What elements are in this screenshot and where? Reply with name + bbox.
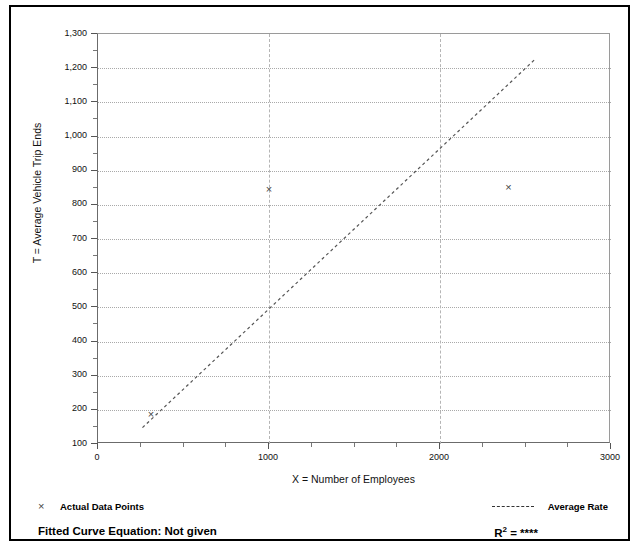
r-squared-prefix: R	[494, 527, 502, 539]
plot-area: ×××	[97, 33, 610, 443]
x-axis-minor-tick	[225, 443, 226, 447]
x-axis-minor-tick	[311, 443, 312, 447]
x-axis-minor-tick	[396, 443, 397, 447]
x-axis-minor-tick	[567, 443, 568, 447]
clipped-chart-title	[0, 0, 638, 4]
legend-row-statistics: Fitted Curve Equation: Not given R2 = **…	[11, 523, 632, 543]
gridline-horizontal	[98, 171, 611, 172]
legend-data-points-label: Actual Data Points	[60, 501, 144, 513]
legend-data-point-marker-icon: ×	[38, 500, 44, 512]
x-axis-tick	[268, 443, 269, 449]
y-axis-tick-label-text: 300	[43, 370, 87, 379]
x-axis-minor-tick	[482, 443, 483, 447]
gridline-horizontal	[98, 410, 611, 411]
y-axis-title: T = Average Vehicle Trip Ends	[31, 93, 43, 293]
r-squared-value: R2 = ****	[494, 525, 538, 539]
scatter-point: ×	[146, 409, 157, 420]
x-axis-minor-tick	[525, 443, 526, 447]
gridline-horizontal	[98, 68, 611, 69]
x-axis-minor-tick	[354, 443, 355, 447]
chart-legend: × Actual Data Points Average Rate Fitted…	[11, 497, 632, 543]
y-axis-tick-label-text: 1,200	[43, 63, 87, 72]
y-axis-tick-label-text: 500	[43, 302, 87, 311]
r-squared-exponent: 2	[503, 525, 507, 534]
y-axis-tick-label-text: 1,000	[43, 131, 87, 140]
y-axis-tick-label-text: 700	[43, 234, 87, 243]
chart-page: T = Average Vehicle Trip Ends 1002003004…	[0, 0, 638, 546]
gridline-horizontal	[98, 205, 611, 206]
chart-area: T = Average Vehicle Trip Ends 1002003004…	[11, 7, 632, 497]
x-axis-minor-tick	[183, 443, 184, 447]
legend-average-rate-label: Average Rate	[548, 501, 608, 513]
x-axis-tick	[610, 443, 611, 449]
x-axis-tick-label: 1000	[248, 453, 288, 462]
y-axis-tick-label-text: 400	[43, 336, 87, 345]
gridline-vertical	[440, 34, 441, 444]
scatter-point: ×	[503, 182, 514, 193]
x-axis-tick	[97, 443, 98, 449]
y-axis-tick-label-text: 200	[43, 404, 87, 413]
x-axis-tick	[439, 443, 440, 449]
gridline-vertical	[269, 34, 270, 444]
y-axis-tick-label-text: 900	[43, 165, 87, 174]
y-axis-tick-label-text: 1,100	[43, 97, 87, 106]
y-axis-tick-label-text: 800	[43, 199, 87, 208]
x-axis-title: X = Number of Employees	[97, 473, 610, 485]
legend-dashed-line-icon	[492, 506, 534, 507]
chart-frame-border: T = Average Vehicle Trip Ends 1002003004…	[9, 5, 630, 541]
gridline-horizontal	[98, 376, 611, 377]
gridline-horizontal	[98, 239, 611, 240]
x-axis-tick-label: 3000	[590, 453, 630, 462]
y-axis-tick-label-text: 100	[43, 439, 87, 448]
fitted-curve-equation: Fitted Curve Equation: Not given	[38, 525, 217, 537]
x-axis-tick-label: 0	[77, 453, 117, 462]
gridline-horizontal	[98, 137, 611, 138]
legend-row-series: × Actual Data Points Average Rate	[11, 499, 632, 517]
gridline-horizontal	[98, 342, 611, 343]
x-axis-minor-tick	[140, 443, 141, 447]
r-squared-number: = ****	[510, 527, 538, 539]
x-axis-tick-label: 2000	[419, 453, 459, 462]
gridline-horizontal	[98, 102, 611, 103]
gridline-horizontal	[98, 273, 611, 274]
gridline-horizontal	[98, 307, 611, 308]
y-axis-tick-label-text: 600	[43, 268, 87, 277]
scatter-point: ×	[264, 184, 275, 195]
y-axis-tick-label-text: 1,300	[43, 29, 87, 38]
